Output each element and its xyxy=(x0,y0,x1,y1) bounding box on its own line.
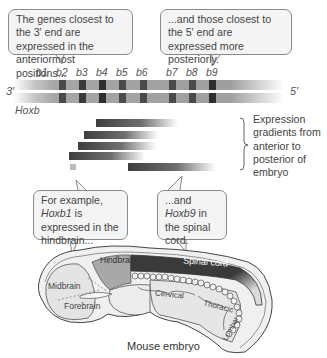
callout-5prime: ...and those closest to the 5′ end are e… xyxy=(160,9,292,55)
gene-label-b9: b9 xyxy=(206,66,218,78)
hoxb-chromosome xyxy=(14,80,284,103)
callout-hoxb1-gene: Hoxb1 xyxy=(41,207,72,219)
callout-hoxb1: For example, Hoxb1 is expressed in the h… xyxy=(33,190,128,240)
end-label-5prime: 5′ xyxy=(290,85,298,97)
gene-label-b3: b3 xyxy=(76,66,88,78)
callout-3prime: The genes closest to the 3′ end are expr… xyxy=(8,9,133,55)
gene-label-b4: b4 xyxy=(96,66,108,78)
gene-label-b2: b2 xyxy=(56,66,68,78)
embryo-caption: Mouse embryo xyxy=(127,340,200,353)
cluster-name-hoxb: Hoxb xyxy=(15,104,40,116)
gene-label-b5: b5 xyxy=(116,66,128,78)
region-hindbrain: Hindbrain xyxy=(100,254,136,267)
gene-label-b6: b6 xyxy=(136,66,148,78)
gradients-label: Expression gradients from anterior to po… xyxy=(253,113,327,179)
region-forebrain: Forebrain xyxy=(64,300,100,313)
region-midbrain: Midbrain xyxy=(48,280,81,293)
expression-gradient-bars xyxy=(69,119,216,171)
callout-hoxb9-pre: ...and xyxy=(165,194,192,206)
region-cervical: Cervical xyxy=(154,287,184,303)
gene-label-b1: b1 xyxy=(36,66,48,78)
gene-label-b7: b7 xyxy=(166,66,178,78)
gene-label-b8: b8 xyxy=(186,66,198,78)
callout-hoxb1-pre: For example, xyxy=(41,194,103,206)
callout-hoxb9: ...and Hoxb9 in the spinal cord. xyxy=(157,190,227,240)
brace-icon xyxy=(240,118,248,170)
end-label-3prime: 3′ xyxy=(6,85,14,97)
callout-hoxb9-gene: Hoxb9 xyxy=(165,207,196,219)
